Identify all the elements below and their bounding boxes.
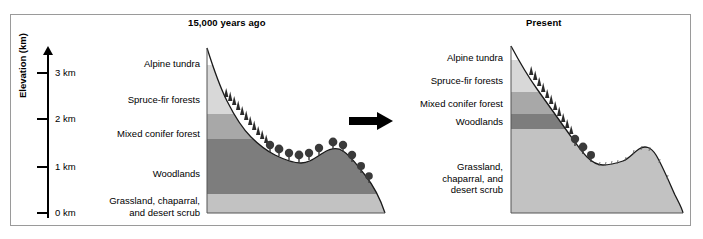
zone-label-past-mixed-conifer: Mixed conifer forest (40, 128, 200, 140)
band-woodlands (507, 114, 685, 129)
zone-label-present-grassland-line2: chaparral, and (395, 172, 503, 184)
panel-title-past: 15,000 years ago (188, 17, 266, 28)
band-alpine-tundra (203, 45, 389, 65)
arrow-right-icon (349, 112, 393, 130)
zone-label-past-alpine-tundra: Alpine tundra (60, 58, 200, 70)
axis-tick-2km (37, 118, 48, 120)
zone-label-past-grassland: Grassland, chaparral, and desert scrub (30, 195, 200, 218)
zone-label-past-spruce-fir: Spruce-fir forests (50, 94, 200, 106)
zone-label-past-woodlands: Woodlands (60, 168, 200, 180)
axis-tick-1km (37, 166, 48, 168)
band-spruce-fir (507, 60, 685, 92)
zone-label-past-grassland-line1: Grassland, chaparral, (30, 195, 200, 207)
band-alpine-tundra (507, 43, 685, 60)
zone-label-present-spruce-fir: Spruce-fir forests (390, 75, 503, 87)
axis-caption: Elevation (km) (17, 33, 28, 98)
present-mountain-profile (507, 43, 685, 215)
zone-label-present-grassland: Grassland, chaparral, and desert scrub (395, 161, 503, 196)
band-grassland (203, 194, 389, 215)
present-vegetation-bands (507, 43, 685, 215)
band-spruce-fir (203, 65, 389, 114)
zone-label-present-grassland-line1: Grassland, (395, 161, 503, 173)
zone-label-present-alpine-tundra: Alpine tundra (405, 52, 503, 64)
panel-title-present: Present (526, 17, 562, 28)
zone-label-present-grassland-line3: desert scrub (395, 184, 503, 196)
band-grassland (507, 129, 685, 215)
zone-label-present-mixed-conifer: Mixed conifer forest (382, 98, 503, 110)
transition-arrow (349, 112, 393, 130)
zone-label-past-grassland-line2: and desert scrub (30, 206, 200, 218)
scene-present (507, 43, 685, 215)
band-mixed-conifer (507, 92, 685, 114)
zone-label-present-woodlands: Woodlands (410, 116, 503, 128)
axis-tick-label-2km: 2 km (55, 113, 76, 124)
axis-tick-3km (37, 72, 48, 74)
